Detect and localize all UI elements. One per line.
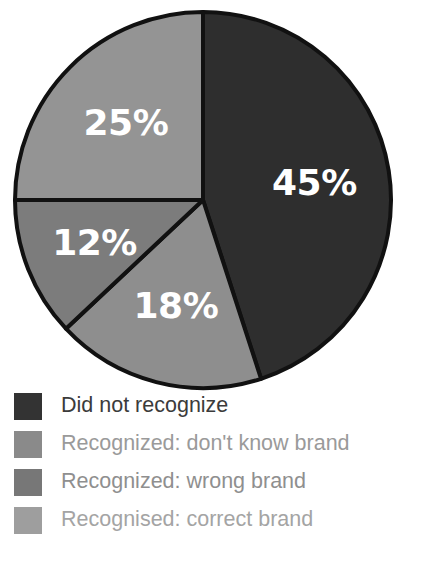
legend-swatch-icon-1	[14, 431, 42, 458]
legend-swatch-icon-3	[14, 507, 42, 534]
legend-item-wrong-brand[interactable]: Recognized: wrong brand	[14, 463, 414, 501]
legend-item-dont-know-brand[interactable]: Recognized: don't know brand	[14, 425, 414, 463]
pie-slice-label-1: 18%	[134, 285, 219, 326]
pie-chart-figure: 45% 18% 12% 25% Did not recognize Recogn…	[0, 0, 421, 574]
legend-swatch-icon-0	[14, 393, 42, 420]
legend-label-0: Did not recognize	[61, 395, 228, 417]
pie-chart-area: 45% 18% 12% 25%	[0, 0, 421, 395]
legend-label-2: Recognized: wrong brand	[61, 471, 306, 493]
legend-swatch-icon-2	[14, 469, 42, 496]
pie-slice-label-3: 25%	[84, 102, 169, 143]
pie-slice-label-0: 45%	[272, 162, 357, 203]
legend-item-did-not-recognize[interactable]: Did not recognize	[14, 387, 414, 425]
chart-legend: Did not recognize Recognized: don't know…	[14, 387, 414, 539]
legend-label-3: Recognised: correct brand	[61, 509, 313, 531]
legend-label-1: Recognized: don't know brand	[61, 433, 350, 455]
pie-slice-label-2: 12%	[52, 222, 137, 263]
pie-chart-svg: 45% 18% 12% 25%	[0, 0, 421, 395]
legend-item-correct-brand[interactable]: Recognised: correct brand	[14, 501, 414, 539]
